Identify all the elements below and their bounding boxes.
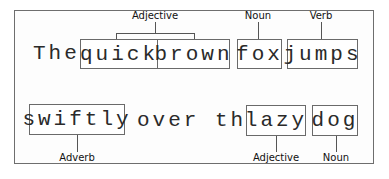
bracket-leg-quick bbox=[116, 33, 117, 39]
word-box-swiftly: swiftly bbox=[29, 104, 125, 135]
bracket-leg-brown bbox=[194, 33, 195, 39]
word-box-brown: brown bbox=[157, 39, 230, 69]
adjective-stem-2 bbox=[276, 136, 277, 152]
verb-stem bbox=[321, 22, 322, 39]
word-box-dog: dog bbox=[312, 105, 358, 136]
words-over-the: over the bbox=[137, 110, 262, 131]
noun-stem-1 bbox=[258, 22, 259, 39]
word-box-jumps: jumps bbox=[287, 39, 358, 69]
label-verb: Verb bbox=[310, 11, 333, 21]
adjective-stem bbox=[155, 22, 156, 33]
label-adverb: Adverb bbox=[59, 153, 95, 163]
noun-stem-2 bbox=[336, 136, 337, 152]
label-noun-2: Noun bbox=[323, 153, 349, 163]
word-box-lazy: lazy bbox=[246, 105, 306, 136]
word-box-fox: fox bbox=[237, 39, 282, 69]
adjective-bracket bbox=[116, 33, 194, 34]
word-the: The bbox=[33, 43, 80, 64]
label-adjective-1: Adjective bbox=[132, 11, 178, 21]
label-noun-1: Noun bbox=[245, 11, 271, 21]
label-adjective-2: Adjective bbox=[253, 153, 299, 163]
adverb-stem bbox=[77, 135, 78, 152]
word-box-quick: quick bbox=[80, 39, 158, 69]
